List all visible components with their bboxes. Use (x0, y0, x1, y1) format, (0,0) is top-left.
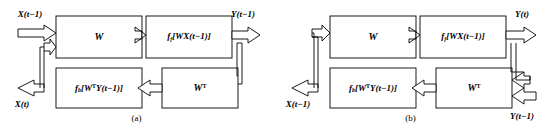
arrow-feedback-to-weight (312, 25, 330, 41)
feedback-line-left (312, 37, 318, 88)
panel-a: W ff[WX(t−1)] fb[WTY(t−1)] WT X(t−1) Y(t… (0, 0, 273, 130)
feedback-line-right-2 (238, 43, 242, 84)
panel-b-graphics (274, 0, 547, 130)
feedback-line-left-2 (40, 47, 44, 88)
arrow-feedback-to-weight (44, 39, 56, 55)
feedback-line-right (511, 43, 524, 72)
caption-b: (b) (405, 114, 416, 123)
box-weight-forward (56, 16, 142, 58)
box-activation-backward (330, 68, 416, 108)
box-activation-backward (56, 68, 142, 108)
arrow-input-y (512, 88, 536, 104)
feedback-line-left-2 (312, 33, 314, 88)
box-weight-forward (330, 16, 416, 58)
box-weight-transpose (436, 68, 512, 108)
panel-b: W ff[WX(t−1)] fb[WTY(t−1)] WT Y(t) X(t−1… (274, 0, 547, 130)
arrow-output-y (506, 27, 536, 43)
caption-a: (a) (132, 114, 142, 123)
arrow-output-y (232, 27, 260, 43)
box-activation-forward (420, 16, 506, 58)
panel-a-graphics (0, 0, 273, 130)
arrow-input-x (18, 25, 56, 41)
box-weight-transpose (162, 68, 238, 108)
bam-block-diagram: W ff[WX(t−1)] fb[WTY(t−1)] WT X(t−1) Y(t… (0, 0, 547, 130)
box-activation-forward (146, 16, 232, 58)
